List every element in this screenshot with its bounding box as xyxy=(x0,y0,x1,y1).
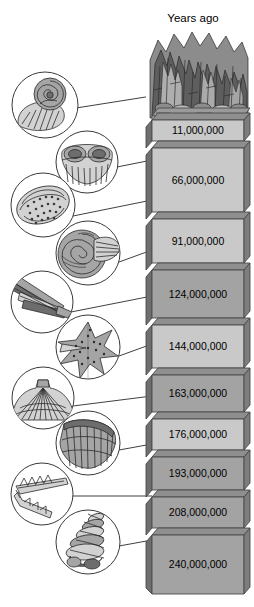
fossil-nautiloid-spiral[interactable] xyxy=(56,221,120,285)
block-right-face-10 xyxy=(244,528,250,594)
block-side-face-5 xyxy=(146,325,152,375)
strata-fossil-diagram: Years ago xyxy=(0,0,254,607)
strata-layer-240m[interactable]: 240,000,000 xyxy=(146,528,250,594)
block-top-face-8 xyxy=(152,450,250,457)
leader-line-1 xyxy=(76,96,152,108)
block-side-face-4 xyxy=(146,270,152,325)
block-side-face-6 xyxy=(146,375,152,419)
strata-label-163m: 163,000,000 xyxy=(169,387,228,399)
block-top-face-6 xyxy=(152,368,250,375)
block-top-face-7 xyxy=(152,412,250,419)
strata-layer-163m[interactable]: 163,000,000 xyxy=(146,368,250,419)
fossil-graptolite-zigzag[interactable] xyxy=(11,463,73,525)
fossil-textured-shell[interactable] xyxy=(11,173,75,237)
block-side-face-3 xyxy=(146,219,152,270)
rock-cliff-outcrop xyxy=(146,28,250,120)
strata-label-66m: 66,000,000 xyxy=(172,174,225,186)
leader-line-5 xyxy=(71,296,152,312)
block-side-face-10 xyxy=(146,535,152,594)
block-right-face-2 xyxy=(244,141,250,212)
strata-label-193m: 193,000,000 xyxy=(169,467,228,479)
strata-label-124m: 124,000,000 xyxy=(169,288,228,300)
leader-line-7 xyxy=(73,396,152,406)
block-right-face-9 xyxy=(244,490,250,528)
block-right-face-7 xyxy=(244,412,250,450)
block-right-face-5 xyxy=(244,318,250,368)
strata-layer-124m[interactable]: 124,000,000 xyxy=(146,263,250,325)
strata-layer-66m[interactable]: 66,000,000 xyxy=(146,141,250,219)
fossil-ammonite-spiral[interactable] xyxy=(12,72,78,138)
block-top-face-3 xyxy=(152,212,250,219)
block-side-face-1 xyxy=(146,120,152,148)
page-title: Years ago xyxy=(167,12,218,24)
block-top-face-1 xyxy=(152,113,250,120)
block-top-face-10 xyxy=(152,528,250,535)
fossil-spiny-star[interactable] xyxy=(56,315,120,379)
fossil-ribbed-scallop[interactable] xyxy=(56,411,120,475)
block-side-face-2 xyxy=(146,148,152,219)
block-side-face-7 xyxy=(146,419,152,457)
block-right-face-4 xyxy=(244,263,250,318)
block-top-face-9 xyxy=(152,490,250,497)
strata-label-176m: 176,000,000 xyxy=(169,428,228,440)
fossil-gastropod-spire[interactable] xyxy=(56,510,120,574)
strata-label-91m: 91,000,000 xyxy=(172,235,225,247)
leader-line-3 xyxy=(73,200,152,216)
block-right-face-6 xyxy=(244,368,250,412)
block-top-face-5 xyxy=(152,318,250,325)
block-side-face-9 xyxy=(146,497,152,535)
block-top-face-2 xyxy=(152,141,250,148)
fossil-belemnite-blades[interactable] xyxy=(11,271,73,333)
block-right-face-3 xyxy=(244,212,250,263)
strata-layer-144m[interactable]: 144,000,000 xyxy=(146,318,250,375)
strata-layer-91m[interactable]: 91,000,000 xyxy=(146,212,250,270)
block-right-face-8 xyxy=(244,450,250,490)
strata-label-240m: 240,000,000 xyxy=(169,558,228,570)
strata-label-11m: 11,000,000 xyxy=(172,124,224,136)
fossil-fan-brachiopod[interactable] xyxy=(12,367,74,429)
block-side-face-8 xyxy=(146,457,152,497)
strata-label-144m: 144,000,000 xyxy=(169,340,228,352)
block-top-face-4 xyxy=(152,263,250,270)
strata-label-208m: 208,000,000 xyxy=(169,506,228,518)
